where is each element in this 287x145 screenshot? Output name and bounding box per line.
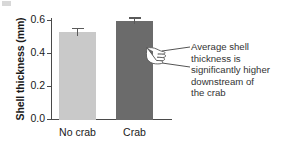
pointing-hand-icon [146,44,192,70]
y-tick-label-3: 0.6 [30,13,45,25]
bar-crab [116,21,153,120]
y-tick-mark-0 [47,119,51,120]
y-tick-mark-1 [47,86,51,87]
annotation-line-2: significantly higher [191,64,287,76]
y-tick-mark-3 [47,20,51,21]
crop-artifact [2,1,11,6]
y-tick-label-1: 0.2 [30,79,45,91]
x-axis-label-crab: Crab [102,126,167,138]
error-bar-cap-no-crab [72,28,84,29]
y-tick-label-0: 0.0 [30,112,45,124]
y-tick-label-2: 0.4 [30,46,45,58]
y-tick-mark-2 [47,53,51,54]
x-axis-label-no-crab: No crab [45,126,110,138]
annotation-text-block: Average shell thickness is significantly… [191,41,287,99]
y-axis-line [51,18,52,120]
error-bar-line-crab [134,19,135,25]
y-axis-title: Shell thickness (mm) [14,9,26,129]
error-bar-line-no-crab [77,29,78,37]
error-bar-cap-crab [129,17,141,18]
annotation-line-0: Average shell [191,41,287,53]
annotation-line-1: thickness is [191,53,287,65]
bar-chart-figure: Shell thickness (mm) 0.0 0.2 0.4 0.6 [0,0,287,145]
annotation-line-4: the crab [191,87,287,99]
annotation-line-3: downstream of [191,76,287,88]
bar-no-crab [59,32,96,120]
